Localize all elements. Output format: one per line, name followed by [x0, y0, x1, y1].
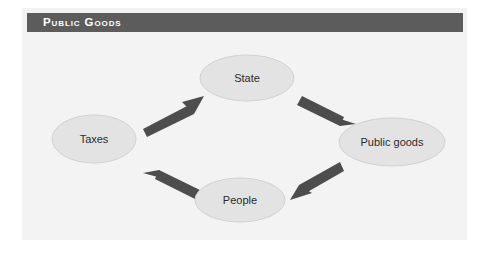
arrow-state-to-public-goods	[297, 96, 356, 126]
node-people[interactable]: People	[195, 178, 285, 222]
node-state[interactable]: State	[200, 55, 294, 101]
arrow-public-goods-to-people	[290, 162, 344, 200]
node-public-goods-label: Public goods	[361, 136, 424, 148]
node-state-label: State	[234, 72, 260, 84]
figure-root: Public Goods State	[0, 0, 485, 261]
node-taxes-label: Taxes	[80, 133, 109, 145]
node-taxes[interactable]: Taxes	[52, 115, 136, 163]
figure-title: Public Goods	[27, 17, 122, 29]
figure-title-bar: Public Goods	[27, 13, 463, 32]
arrow-taxes-to-state	[143, 96, 204, 137]
node-public-goods[interactable]: Public goods	[339, 118, 445, 166]
arrow-people-to-taxes	[143, 170, 202, 200]
cycle-diagram: State Public goods People Taxes	[22, 32, 467, 240]
node-people-label: People	[223, 194, 257, 206]
